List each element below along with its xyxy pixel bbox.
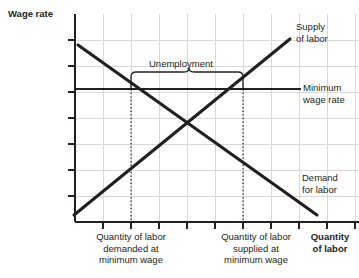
supply-curve-label-line2: of labor [296,33,328,44]
quantity-supplied-label: Quantity of labor supplied at minimum wa… [205,231,307,266]
minimum-wage-rate-label: Minimumwage rate [303,82,345,105]
demand-curve [78,45,317,215]
supply-curve-label-line1: Supply [296,21,325,32]
unemployment-bracket-label: Unemployment [149,58,213,70]
x-axis-title: Quantity of labor [303,231,357,254]
supply-curve-label: Supplyof labor [296,21,328,44]
y-axis-ticks [68,40,75,196]
demand-curve-label-line1: Demand [302,172,338,183]
demand-curve-label: Demandfor labor [302,172,338,195]
wage-rate-labor-market-diagram: Wage rate Supplyof labor Unemployment Mi… [0,0,359,278]
minimum-wage-label-line1: Minimum [303,82,342,93]
minimum-wage-label-line2: wage rate [303,94,345,105]
x-axis-ticks [103,222,355,229]
demand-curve-label-line2: for labor [302,184,337,195]
quantity-demanded-label: Quantity of labor demanded at minimum wa… [76,231,186,266]
y-axis-title: Wage rate [8,8,53,20]
